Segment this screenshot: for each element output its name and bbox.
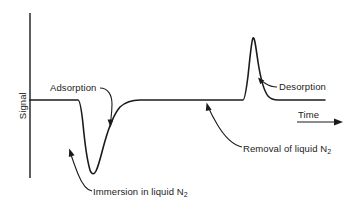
y-axis-label: Signal [18, 76, 28, 136]
annotation-label-adsorption: Adsorption [50, 83, 96, 93]
annotation-immersion-subscript: 2 [184, 191, 188, 198]
annotation-removal-subscript: 2 [327, 148, 331, 155]
removal-arrowhead [206, 103, 212, 111]
time-axis-arrowhead [334, 118, 343, 125]
annotation-removal-text: Removal of liquid N [243, 143, 327, 154]
immersion-arrowhead [69, 149, 75, 157]
adsorption-leader-line [100, 88, 112, 123]
immersion-leader-line [71, 153, 93, 191]
annotation-immersion-text: Immersion in liquid N [93, 186, 184, 197]
annotation-label-immersion: Immersion in liquid N2 [93, 187, 188, 197]
x-axis-label: Time [298, 110, 319, 120]
removal-leader-line [208, 107, 242, 147]
bet-signal-trace-figure: Signal Adsorption Immersion in liquid N2… [0, 0, 350, 213]
annotation-label-removal: Removal of liquid N2 [243, 144, 331, 154]
figure-canvas [0, 0, 350, 213]
adsorption-arrowhead [108, 120, 114, 128]
annotation-label-desorption: Desorption [279, 82, 326, 92]
